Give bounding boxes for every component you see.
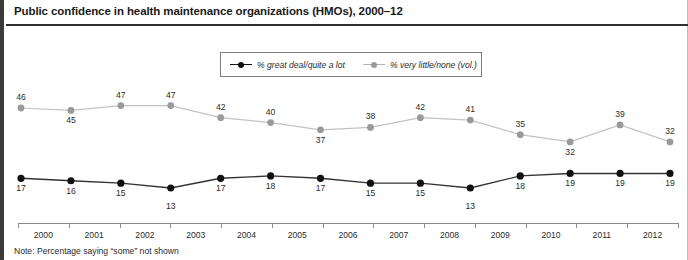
data-label-very-little: 39: [615, 109, 625, 119]
data-label-great-deal: 19: [665, 178, 675, 188]
x-axis-tick: [170, 223, 171, 228]
x-axis-label: 2003: [186, 230, 205, 240]
data-label-very-little: 37: [316, 135, 326, 145]
data-point-very-little: [217, 114, 224, 121]
chart-plot-area: [0, 0, 688, 260]
data-point-great-deal: [67, 177, 74, 184]
x-axis-label: 2012: [643, 230, 662, 240]
data-point-very-little: [68, 107, 75, 114]
x-axis-line: [18, 223, 678, 224]
data-point-great-deal: [217, 175, 224, 182]
data-label-great-deal: 18: [515, 181, 525, 191]
data-label-great-deal: 15: [116, 188, 126, 198]
x-axis-tick: [627, 223, 628, 228]
legend-label-very-little: % very little/none (vol.): [390, 60, 477, 70]
x-axis-tick: [18, 223, 19, 228]
data-label-very-little: 42: [416, 102, 426, 112]
data-point-very-little: [167, 102, 174, 109]
data-point-great-deal: [267, 172, 274, 179]
data-label-very-little: 32: [665, 126, 675, 136]
data-point-great-deal: [467, 184, 474, 191]
data-point-great-deal: [616, 170, 623, 177]
data-label-very-little: 47: [166, 90, 176, 100]
data-point-great-deal: [317, 175, 324, 182]
x-axis-label: 2009: [491, 230, 510, 240]
data-point-very-little: [417, 114, 424, 121]
x-axis-tick: [475, 223, 476, 228]
x-axis-label: 2002: [135, 230, 154, 240]
legend-marker-gray-icon: [363, 60, 385, 69]
x-axis-tick: [424, 223, 425, 228]
x-axis-tick: [373, 223, 374, 228]
data-point-great-deal: [367, 180, 374, 187]
data-label-very-little: 41: [466, 104, 476, 114]
data-label-very-little: 35: [515, 119, 525, 129]
x-axis-tick: [120, 223, 121, 228]
data-point-great-deal: [417, 180, 424, 187]
data-label-great-deal: 17: [16, 183, 26, 193]
legend-label-great-deal: % great deal/quite a lot: [257, 60, 345, 70]
data-label-very-little: 40: [266, 107, 276, 117]
x-axis-tick: [69, 223, 70, 228]
data-label-great-deal: 17: [316, 183, 326, 193]
data-label-great-deal: 19: [565, 178, 575, 188]
data-label-great-deal: 16: [66, 186, 76, 196]
data-label-very-little: 42: [216, 102, 226, 112]
data-label-great-deal: 17: [216, 183, 226, 193]
x-axis-label: 2001: [85, 230, 104, 240]
data-point-great-deal: [17, 175, 24, 182]
legend-entry-great-deal: % great deal/quite a lot: [230, 60, 345, 70]
x-axis-label: 2005: [288, 230, 307, 240]
x-axis-label: 2006: [338, 230, 357, 240]
data-label-very-little: 47: [116, 90, 126, 100]
legend-marker-black-icon: [230, 60, 252, 69]
x-axis-label: 2004: [237, 230, 256, 240]
chart-legend: % great deal/quite a lot % very little/n…: [220, 52, 482, 77]
x-axis-label: 2008: [440, 230, 459, 240]
chart-figure: Public confidence in health maintenance …: [0, 0, 688, 260]
data-label-great-deal: 15: [416, 188, 426, 198]
data-label-great-deal: 15: [366, 188, 376, 198]
data-point-great-deal: [666, 170, 673, 177]
data-label-great-deal: 13: [466, 201, 476, 211]
data-label-great-deal: 19: [615, 178, 625, 188]
x-axis-tick: [576, 223, 577, 228]
data-label-very-little: 45: [66, 115, 76, 125]
data-label-very-little: 46: [16, 92, 26, 102]
figure-inner-edge: [4, 0, 6, 260]
data-point-very-little: [367, 124, 374, 131]
data-label-very-little: 32: [565, 147, 575, 157]
legend-entry-very-little: % very little/none (vol.): [363, 60, 477, 70]
data-point-very-little: [667, 139, 674, 146]
data-label-very-little: 38: [366, 111, 376, 121]
title-divider: [6, 24, 688, 26]
data-point-great-deal: [117, 180, 124, 187]
x-axis-tick: [221, 223, 222, 228]
data-point-very-little: [267, 119, 274, 126]
data-point-very-little: [467, 117, 474, 124]
data-point-very-little: [317, 126, 324, 133]
data-point-very-little: [567, 139, 574, 146]
chart-note: Note: Percentage saying “some” not shown: [14, 246, 179, 256]
x-axis-label: 2000: [34, 230, 53, 240]
x-axis-tick: [323, 223, 324, 228]
x-axis-label: 2011: [593, 230, 611, 240]
data-point-very-little: [617, 122, 624, 129]
data-point-great-deal: [517, 172, 524, 179]
series-line-very-little: [21, 106, 670, 142]
x-axis-label: 2010: [542, 230, 561, 240]
x-axis-tick: [678, 223, 679, 228]
x-axis-label: 2007: [389, 230, 408, 240]
data-label-great-deal: 18: [266, 181, 276, 191]
data-point-very-little: [517, 131, 524, 138]
x-axis-tick: [526, 223, 527, 228]
data-point-very-little: [18, 105, 25, 112]
data-label-great-deal: 13: [166, 201, 176, 211]
data-point-great-deal: [167, 184, 174, 191]
data-point-very-little: [117, 102, 124, 109]
data-point-great-deal: [567, 170, 574, 177]
x-axis-tick: [272, 223, 273, 228]
chart-title: Public confidence in health maintenance …: [14, 5, 403, 17]
